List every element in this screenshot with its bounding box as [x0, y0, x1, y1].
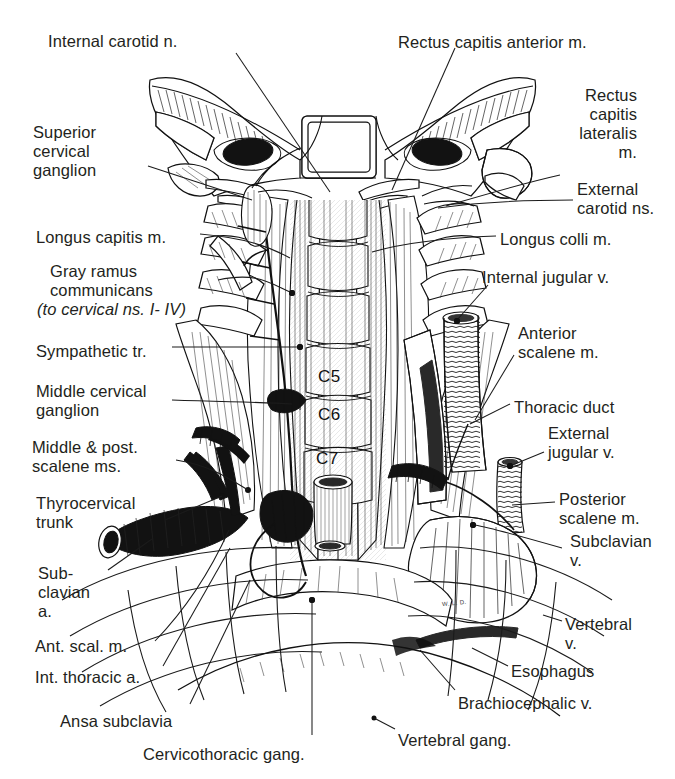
label-internal-jugular-v: Internal jugular v. — [482, 268, 609, 287]
internal-jugular-vein — [443, 312, 486, 472]
esophagus-stump — [314, 475, 352, 551]
label-thoracic-duct: Thoracic duct — [514, 398, 614, 417]
label-middle-post-scalene-ms: Middle & post. scalene ms. — [32, 438, 138, 476]
label-sympathetic-tr: Sympathetic tr. — [36, 342, 147, 361]
label-longus-capitis-m: Longus capitis m. — [36, 228, 166, 247]
label-internal-carotid-n: Internal carotid n. — [48, 32, 177, 51]
skull-base-group — [149, 78, 535, 214]
label-ansa-subclavia: Ansa subclavia — [60, 712, 172, 731]
label-thyrocervical-trunk: Thyrocervical trunk — [36, 494, 135, 532]
label-external-carotid-ns: External carotid ns. — [577, 180, 654, 218]
vertebral-tag-c6: C6 — [318, 406, 341, 423]
label-rectus-capitis-lateralis-m: Rectus capitis lateralis m. — [579, 86, 637, 162]
label-superior-cervical-gang: Superior cervical ganglion — [33, 123, 96, 180]
vertebral-tag-c7: C7 — [316, 450, 339, 467]
anatomical-figure: Internal carotid n.Superior cervical gan… — [0, 0, 675, 779]
label-gray-ramus-communicans: Gray ramus communicans — [50, 262, 153, 300]
label-int-thoracic-a: Int. thoracic a. — [35, 668, 140, 687]
label-anterior-scalene-m: Anterior scalene m. — [518, 324, 599, 362]
label-longus-colli-m: Longus colli m. — [500, 230, 612, 249]
vertebral-tag-c5: C5 — [318, 368, 341, 385]
label-cervicothoracic-gang: Cervicothoracic gang. — [143, 745, 305, 764]
label-middle-cervical-gang: Middle cervical ganglion — [36, 382, 147, 420]
label-vertebral-v: Vertebral v. — [565, 615, 632, 653]
label-external-jugular-v: External jugular v. — [548, 424, 615, 462]
label-ant-scal-m: Ant. scal. m. — [35, 637, 127, 656]
label-posterior-scalene-m: Posterior scalene m. — [559, 490, 640, 528]
label-subclavian-a: Sub- clavian a. — [38, 564, 90, 621]
label-subclavian-v: Subclavian v. — [570, 532, 652, 570]
label-rectus-capitis-anterior-m: Rectus capitis anterior m. — [398, 33, 587, 52]
label-vertebral-gang: Vertebral gang. — [398, 731, 511, 750]
label-brachiocephalic-v: Brachiocephalic v. — [458, 694, 592, 713]
label-esophagus: Esophagus — [511, 662, 594, 681]
label-to-cervical-ns: (to cervical ns. I- IV) — [37, 300, 186, 319]
